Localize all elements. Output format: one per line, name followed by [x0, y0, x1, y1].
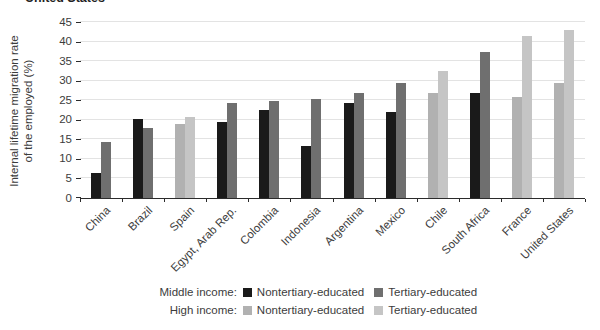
bar-group-brazil [122, 22, 164, 198]
y-tick-label-15: 15 [44, 133, 72, 146]
legend-swatch-middle_tertiary [374, 288, 383, 297]
bar-indonesia-tertiary [311, 99, 321, 198]
legend-item-text: Tertiary-educated [388, 304, 477, 316]
bar-group-china [80, 22, 122, 198]
x-tick-label-spain: Spain [110, 204, 196, 290]
bar-south-africa-nontertiary [470, 93, 480, 198]
migration-rate-bar-chart: United States Internal lifetime migratio… [0, 0, 600, 330]
legend: Middle income:Nontertiary-educatedTertia… [0, 283, 600, 319]
x-tick-mark-12 [585, 199, 586, 202]
clipped-figure-title-text: United States [25, 0, 225, 6]
x-tick-mark-8 [417, 199, 418, 202]
bar-group-spain [164, 22, 206, 198]
bar-group-chile [417, 22, 459, 198]
bar-france-tertiary [522, 36, 532, 198]
bar-south-africa-tertiary [480, 52, 490, 198]
y-tick-label-40: 40 [44, 35, 72, 48]
legend-row-label: Middle income: [141, 286, 237, 298]
bar-group-united-states [543, 22, 585, 198]
bar-china-nontertiary [91, 173, 101, 198]
bar-argentina-tertiary [354, 93, 364, 198]
x-tick-mark-4 [248, 199, 249, 202]
legend-item-high_tertiary: Tertiary-educated [374, 304, 477, 316]
legend-item-middle_nontertiary: Nontertiary-educated [243, 286, 364, 298]
x-tick-mark-0 [80, 199, 81, 202]
x-tick-label-indonesia: Indonesia [237, 204, 323, 290]
x-tick-label-colombia: Colombia [195, 204, 281, 290]
clipped-figure-title: United States [25, 0, 225, 6]
legend-row-label: High income: [141, 304, 237, 316]
y-tick-label-25: 25 [44, 94, 72, 107]
bar-chile-tertiary [438, 71, 448, 198]
bar-mexico-nontertiary [386, 112, 396, 198]
x-tick-mark-9 [459, 199, 460, 202]
x-tick-label-china: China [26, 204, 112, 290]
x-tick-mark-7 [375, 199, 376, 202]
y-tick-label-30: 30 [44, 74, 72, 87]
y-tick-label-45: 45 [44, 16, 72, 29]
bar-group-egypt-arab-rep [206, 22, 248, 198]
legend-item-high_nontertiary: Nontertiary-educated [243, 304, 364, 316]
y-tick-label-10: 10 [44, 152, 72, 165]
y-axis-title-line1: Internal lifetime migration rate [7, 0, 21, 226]
x-tick-mark-2 [164, 199, 165, 202]
legend-item-text: Nontertiary-educated [257, 304, 364, 316]
legend-row-middle-income: Middle income:Nontertiary-educatedTertia… [141, 283, 487, 301]
x-tick-mark-5 [290, 199, 291, 202]
legend-item-text: Nontertiary-educated [257, 286, 364, 298]
legend-row-high-income: High income:Nontertiary-educatedTertiary… [141, 301, 487, 319]
legend-rows: Middle income:Nontertiary-educatedTertia… [141, 283, 487, 319]
y-tick-label-35: 35 [44, 55, 72, 68]
y-tick-label-0: 0 [44, 192, 72, 205]
bar-indonesia-nontertiary [301, 146, 311, 198]
legend-item-text: Tertiary-educated [388, 286, 477, 298]
bar-united-states-tertiary [564, 30, 574, 198]
legend-swatch-middle_nontertiary [243, 288, 252, 297]
bar-united-states-nontertiary [554, 83, 564, 198]
bar-egypt-arab-rep-nontertiary [217, 122, 227, 198]
bar-colombia-nontertiary [259, 110, 269, 198]
bar-argentina-nontertiary [344, 103, 354, 198]
x-tick-label-south-africa: South Africa [405, 204, 491, 290]
x-tick-label-brazil: Brazil [68, 204, 154, 290]
x-tick-mark-1 [122, 199, 123, 202]
legend-item-middle_tertiary: Tertiary-educated [374, 286, 477, 298]
x-tick-mark-11 [543, 199, 544, 202]
bar-group-colombia [248, 22, 290, 198]
y-axis-title: Internal lifetime migration rate of the … [7, 0, 37, 226]
x-tick-mark-6 [333, 199, 334, 202]
x-tick-label-egypt-arab-rep: Egypt, Arab Rep. [152, 204, 238, 290]
bar-colombia-tertiary [269, 101, 279, 198]
bar-france-nontertiary [512, 97, 522, 198]
x-tick-label-mexico: Mexico [321, 204, 407, 290]
bar-egypt-arab-rep-tertiary [227, 103, 237, 198]
bar-spain-nontertiary [175, 124, 185, 198]
x-tick-mark-3 [206, 199, 207, 202]
bar-group-south-africa [459, 22, 501, 198]
y-tick-label-5: 5 [44, 172, 72, 185]
bar-chile-nontertiary [428, 93, 438, 198]
x-tick-label-argentina: Argentina [279, 204, 365, 290]
bar-group-argentina [333, 22, 375, 198]
y-axis-title-line2: of the employed (%) [21, 0, 35, 226]
bar-china-tertiary [101, 142, 111, 198]
bar-mexico-tertiary [396, 83, 406, 198]
x-tick-label-united-states: United States [489, 204, 575, 290]
bar-brazil-tertiary [143, 128, 153, 198]
x-tick-label-chile: Chile [363, 204, 449, 290]
bar-brazil-nontertiary [133, 119, 143, 198]
legend-swatch-high_nontertiary [243, 306, 252, 315]
legend-swatch-high_tertiary [374, 306, 383, 315]
bar-group-indonesia [290, 22, 332, 198]
y-tick-label-20: 20 [44, 113, 72, 126]
bar-spain-tertiary [185, 117, 195, 198]
x-tick-label-france: France [447, 204, 533, 290]
bar-group-mexico [375, 22, 417, 198]
plot-area [80, 22, 585, 199]
bar-group-france [501, 22, 543, 198]
x-tick-mark-10 [501, 199, 502, 202]
